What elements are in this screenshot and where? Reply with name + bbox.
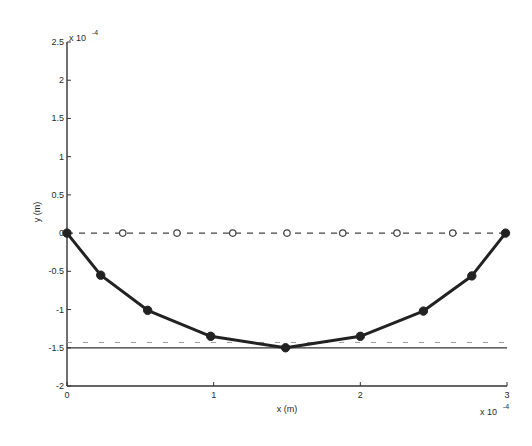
y-tick-label: -1: [56, 305, 64, 315]
data-point-marker: [230, 230, 236, 236]
data-point-marker: [207, 332, 215, 340]
axes: [67, 42, 507, 386]
x-tick-label: 0: [64, 390, 69, 400]
y-tick-label: 0.5: [51, 190, 64, 200]
data-point-marker: [174, 230, 180, 236]
chart: -2-1.5-1-0.500.511.522.5 0123 x (m) y (m…: [0, 0, 532, 446]
data-point-marker: [284, 230, 290, 236]
x-multiplier-base: x 10: [480, 407, 497, 417]
plot-series: [63, 229, 510, 352]
y-axis-label: y (m): [32, 202, 42, 223]
y-tick-label: 2.5: [51, 37, 64, 47]
y-tick-label: 1: [59, 152, 64, 162]
y-multiplier: x 10 -4: [69, 29, 98, 43]
data-point-marker: [468, 272, 476, 280]
y-multiplier-base: x 10: [69, 33, 86, 43]
x-tick-label: 2: [358, 390, 363, 400]
data-point-marker: [450, 230, 456, 236]
x-tick-label: 3: [504, 390, 509, 400]
y-tick-label: -1.5: [48, 343, 64, 353]
data-point-marker: [356, 332, 364, 340]
y-multiplier-exp: -4: [92, 29, 98, 36]
data-point-marker: [97, 271, 105, 279]
data-point-marker: [63, 229, 71, 237]
data-point-marker: [143, 306, 151, 314]
y-tick-label: 2: [59, 75, 64, 85]
data-point-marker: [281, 344, 289, 352]
series-line: [67, 233, 506, 348]
data-point-marker: [501, 229, 509, 237]
y-tick-label: 1.5: [51, 113, 64, 123]
y-tick-label: -0.5: [48, 266, 64, 276]
x-multiplier: x 10 -4: [480, 403, 509, 417]
data-point-marker: [340, 230, 346, 236]
data-point-marker: [419, 307, 427, 315]
x-tick-label: 1: [211, 390, 216, 400]
x-axis-label: x (m): [277, 404, 298, 414]
data-point-marker: [394, 230, 400, 236]
y-tick-label: -2: [56, 381, 64, 391]
x-ticks: 0123: [64, 382, 509, 400]
data-point-marker: [120, 230, 126, 236]
x-multiplier-exp: -4: [503, 403, 509, 410]
